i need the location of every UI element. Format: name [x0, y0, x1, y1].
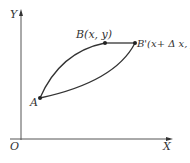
diagram-canvas: Y O X A B(x, y) B'(x+ Δ x, y)	[0, 0, 190, 163]
y-axis-arrow-icon	[19, 9, 23, 16]
point-b	[103, 41, 107, 45]
point-b-prime-label: B'(x+ Δ x, y)	[136, 38, 190, 49]
point-b-label: B(x, y)	[75, 28, 112, 41]
point-a	[38, 96, 42, 100]
x-axis-label: X	[162, 140, 172, 153]
origin-label: O	[10, 140, 19, 153]
y-axis-label: Y	[10, 8, 19, 21]
curve-a-to-b-prime	[40, 43, 135, 98]
x-axis	[10, 137, 173, 141]
point-a-label: A	[29, 96, 38, 109]
y-axis	[19, 9, 23, 140]
